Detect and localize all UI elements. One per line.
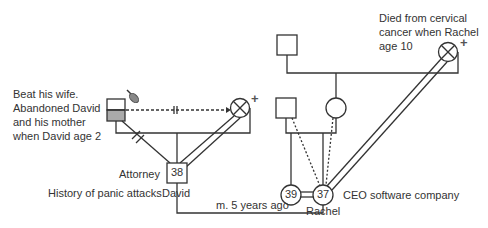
- david-note: History of panic attacks: [48, 187, 162, 200]
- father-note-line: Beat his wife.: [13, 87, 101, 101]
- close-relationship-line: [180, 116, 234, 163]
- rachel-occupation: CEO software company: [343, 189, 459, 202]
- grandmother-note: Died from cervical cancer when Rachel ag…: [379, 11, 479, 53]
- rachel-father-symbol: [276, 98, 296, 118]
- rachel-parents-line: [286, 118, 336, 133]
- bottle-icon: [127, 90, 140, 104]
- david-mother-symbol: [231, 99, 250, 118]
- father-note-line: and his mother: [13, 115, 101, 129]
- rachel-grandparents-line: [287, 52, 458, 73]
- rachel-grandfather-symbol: [277, 35, 297, 55]
- rachel-mother-symbol: [326, 98, 346, 118]
- close-relationship-line-rachel: [327, 59, 441, 186]
- marriage-label: m. 5 years ago: [216, 199, 289, 212]
- rachel-age: 37: [313, 188, 333, 200]
- grandmother-note-line: age 10: [379, 39, 479, 53]
- cutoff-line: [122, 121, 170, 163]
- distant-line: [292, 118, 320, 186]
- david-parents-line: [116, 108, 250, 133]
- david-name: David: [162, 187, 190, 200]
- david-occupation: Attorney: [119, 168, 160, 181]
- conflict-arrow: [126, 106, 231, 114]
- rachel-name: Rachel: [306, 205, 340, 218]
- deceased-mark-david-mother: +: [251, 92, 259, 105]
- grandmother-note-line: cancer when Rachel: [379, 25, 479, 39]
- david-age: 38: [167, 166, 187, 178]
- father-note-line: when David age 2: [13, 129, 101, 143]
- father-note: Beat his wife. Abandoned David and his m…: [13, 87, 101, 143]
- father-note-line: Abandoned David: [13, 101, 101, 115]
- grandmother-note-line: Died from cervical: [379, 11, 479, 25]
- david-father-symbol: [107, 99, 125, 121]
